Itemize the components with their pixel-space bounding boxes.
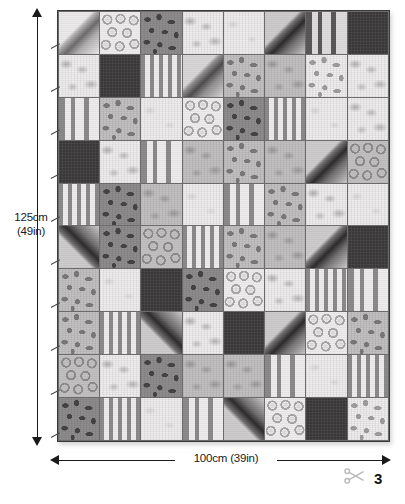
quilt-patch [100,355,140,397]
quilt-patch [224,312,264,354]
quilt-patch [265,269,305,311]
quilt-patch [59,312,99,354]
quilt-patch [100,184,140,226]
quilt-patch [59,55,99,97]
quilt-patch [183,12,223,54]
vertical-arrow-up-icon [32,8,42,17]
quilt-patch [59,398,99,440]
quilt-patch [306,141,346,183]
quilt-patch [59,12,99,54]
page-footer: 3 [344,468,382,488]
quilt-patch [224,98,264,140]
quilt-patch [265,98,305,140]
quilt-patch [59,98,99,140]
quilt-patch [100,98,140,140]
quilt-patch [141,55,181,97]
quilt-patch [348,98,388,140]
quilt-patch [100,141,140,183]
horizontal-arrow-left-icon [50,455,59,465]
quilt-patch [265,184,305,226]
quilt-patch [100,312,140,354]
quilt-patch [224,12,264,54]
quilt-patch [224,141,264,183]
quilt-patch [224,184,264,226]
quilt-patch [306,12,346,54]
height-value-in: (49in) [8,225,54,239]
quilt-patch [306,98,346,140]
quilt-patch [59,141,99,183]
quilt-patch [348,355,388,397]
quilt-patch [265,398,305,440]
quilt-patch [141,269,181,311]
quilt-patch [183,184,223,226]
quilt-illustration [57,10,390,442]
quilt-patch [224,269,264,311]
quilt-patch [100,269,140,311]
quilt-patch [141,184,181,226]
quilt-patch [348,269,388,311]
width-dimension-label: 100cm (39in) [175,452,277,466]
quilt-patch [306,184,346,226]
quilt-patch [306,55,346,97]
quilt-patch [265,355,305,397]
quilt-patch [100,226,140,268]
quilt-patch-grid [57,10,390,442]
figure-canvas: 125cm (49in) 100cm (39in) 3 [0,0,405,504]
quilt-patch [141,141,181,183]
quilt-patch [224,355,264,397]
quilt-patch [183,98,223,140]
quilt-patch [100,55,140,97]
quilt-patch [141,355,181,397]
quilt-patch [306,312,346,354]
quilt-patch [224,226,264,268]
vertical-arrow-down-icon [32,437,42,446]
quilt-patch [183,312,223,354]
quilt-patch [348,398,388,440]
quilt-patch [348,12,388,54]
quilt-patch [265,312,305,354]
quilt-patch [348,226,388,268]
quilt-patch [183,226,223,268]
quilt-patch [306,355,346,397]
quilt-patch [183,269,223,311]
quilt-patch [141,226,181,268]
quilt-patch [348,55,388,97]
quilt-patch [265,12,305,54]
quilt-patch [100,12,140,54]
quilt-patch [183,141,223,183]
quilt-patch [306,226,346,268]
quilt-patch [100,398,140,440]
quilt-patch [348,312,388,354]
quilt-patch [183,55,223,97]
quilt-patch [224,398,264,440]
height-value-cm: 125cm [8,211,54,225]
quilt-patch [59,269,99,311]
quilt-patch [348,141,388,183]
quilt-patch [141,312,181,354]
quilt-patch [306,398,346,440]
quilt-patch [224,55,264,97]
horizontal-arrow-right-icon [382,455,391,465]
quilt-patch [141,12,181,54]
quilt-patch [183,398,223,440]
scissors-icon [344,468,366,488]
quilt-patch [59,226,99,268]
quilt-patch [265,141,305,183]
quilt-patch [183,355,223,397]
quilt-patch [348,184,388,226]
quilt-patch [265,226,305,268]
quilt-patch [141,398,181,440]
quilt-patch [141,98,181,140]
quilt-patch [59,355,99,397]
quilt-patch [306,269,346,311]
height-dimension-label: 125cm (49in) [8,211,54,238]
quilt-patch [265,55,305,97]
quilt-patch [59,184,99,226]
page-number: 3 [374,470,382,487]
